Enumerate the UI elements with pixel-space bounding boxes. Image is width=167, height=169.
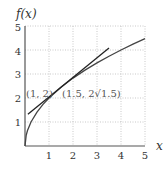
chart: 1 2 3 4 5 1 2 3 4 5 f(x) x (1, 2) (1.5, … (0, 0, 167, 169)
x-axis-title: x (156, 139, 163, 153)
x-tick-3: 3 (94, 150, 100, 161)
point-label-1.5: (1.5, 2√1.5) (62, 88, 121, 99)
y-tick-4: 4 (15, 46, 21, 57)
point-label-1-2: (1, 2) (26, 88, 53, 99)
x-tick-5: 5 (142, 150, 148, 161)
x-tick-1: 1 (46, 150, 52, 161)
y-tick-1: 1 (15, 117, 21, 128)
x-tick-4: 4 (118, 150, 124, 161)
x-tick-2: 2 (70, 150, 76, 161)
y-tick-3: 3 (15, 69, 21, 80)
y-tick-5: 5 (15, 22, 21, 33)
grid (25, 26, 145, 146)
y-tick-2: 2 (15, 93, 21, 104)
y-axis-title: f(x) (15, 7, 37, 21)
